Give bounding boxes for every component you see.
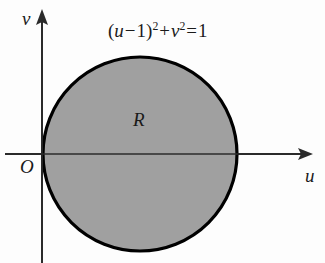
region-label: R [133,110,145,129]
equation-constant-one: 1 [137,20,147,41]
equation-rhs: 1 [198,20,208,41]
origin-label: O [20,157,34,176]
v-axis-label: v [22,9,30,28]
equation-plus-sign: + [158,20,171,41]
geometry-figure: v u O R (u−1)2+v2=1 [0,0,325,263]
circle-equation: (u−1)2+v2=1 [108,21,208,40]
equation-minus-sign: − [124,20,137,41]
u-axis-label: u [305,166,315,185]
equation-var-u: u [114,20,124,41]
equation-equals-sign: = [185,20,198,41]
